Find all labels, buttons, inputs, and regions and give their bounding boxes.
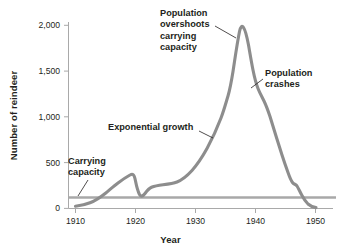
x-tick-label-1910: 1910 xyxy=(66,216,85,226)
y-tick-label-1500: 1,500 xyxy=(26,66,60,76)
y-tick-label-0: 0 xyxy=(26,203,60,213)
annotation-population-overshoots-carrying-capacity: Population overshoots carrying capacity xyxy=(160,8,210,54)
y-tick-marks xyxy=(64,25,69,208)
y-tick-label-500: 500 xyxy=(26,158,60,168)
x-tick-label-1950: 1950 xyxy=(306,216,325,226)
y-tick-label-2000: 2,000 xyxy=(26,20,60,30)
y-axis-title: Number of reindeer xyxy=(8,51,19,181)
x-tick-label-1940: 1940 xyxy=(246,216,265,226)
annotation-population-crashes: Population crashes xyxy=(265,68,312,91)
annotation-exponential-growth: Exponential growth xyxy=(108,122,193,133)
y-tick-label-1000: 1,000 xyxy=(26,112,60,122)
reindeer-population-chart: Number of reindeer Year 2,000 1,500 1,00… xyxy=(0,0,341,252)
annotation-carrying-capacity: Carrying capacity xyxy=(68,156,106,179)
x-tick-label-1920: 1920 xyxy=(126,216,145,226)
x-tick-marks xyxy=(76,209,316,214)
x-tick-label-1930: 1930 xyxy=(186,216,205,226)
x-axis-title: Year xyxy=(0,234,341,245)
